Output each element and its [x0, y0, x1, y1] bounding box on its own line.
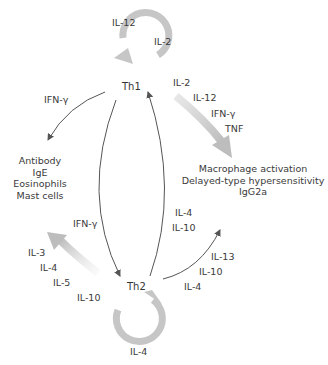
th1-th2-label-ifng: IFN-γ	[73, 218, 97, 229]
th2-to-th1-arrow	[148, 92, 165, 276]
effect-antibody: Antibody	[2, 155, 78, 167]
th1-macrophage-label-il2: IL-2	[173, 77, 190, 88]
th1-antibody-label-ifng: IFN-γ	[44, 94, 68, 105]
th2-th1-label-il10: IL-10	[172, 222, 195, 233]
th2-node: Th2	[127, 281, 146, 292]
effect-ige: IgE	[2, 167, 78, 179]
th2-antibody-label-il3: IL-3	[28, 247, 45, 258]
th2-effects-block: Antibody IgE Eosinophils Mast cells	[2, 155, 78, 201]
effect-macrophage-activation: Macrophage activation	[178, 163, 328, 175]
th1-node: Th1	[122, 81, 141, 92]
th2-autocrine-loop-arrow	[116, 290, 162, 342]
th2-antibody-label-il10: IL-10	[77, 292, 100, 303]
th1-to-macrophage-thick-arrow	[176, 96, 232, 158]
th1-effects-block: Macrophage activation Delayed-type hyper…	[178, 163, 328, 198]
effect-eosinophils: Eosinophils	[2, 178, 78, 190]
th2-macrophage-label-il10: IL-10	[199, 266, 222, 277]
th1-autocrine-label-il2: IL-2	[154, 36, 171, 47]
th1-macrophage-label-il12: IL-12	[193, 92, 216, 103]
th2-autocrine-label-il4: IL-4	[130, 346, 147, 357]
th2-antibody-label-il5: IL-5	[53, 277, 70, 288]
th2-antibody-label-il4: IL-4	[40, 262, 57, 273]
effect-igg2a: IgG2a	[178, 186, 328, 198]
th1-autocrine-label-il12: IL-12	[112, 17, 135, 28]
th2-th1-label-il4: IL-4	[175, 207, 192, 218]
effect-mast-cells: Mast cells	[2, 190, 78, 202]
th1-macrophage-label-ifng: IFN-γ	[211, 108, 235, 119]
effect-delayed-type-hypersensitivity: Delayed-type hypersensitivity	[178, 175, 328, 187]
th1-macrophage-label-tnf: TNF	[225, 123, 243, 134]
th2-macrophage-label-il4: IL-4	[184, 281, 201, 292]
th1-to-th2-arrow	[99, 100, 120, 276]
th2-macrophage-label-il13: IL-13	[211, 251, 234, 262]
